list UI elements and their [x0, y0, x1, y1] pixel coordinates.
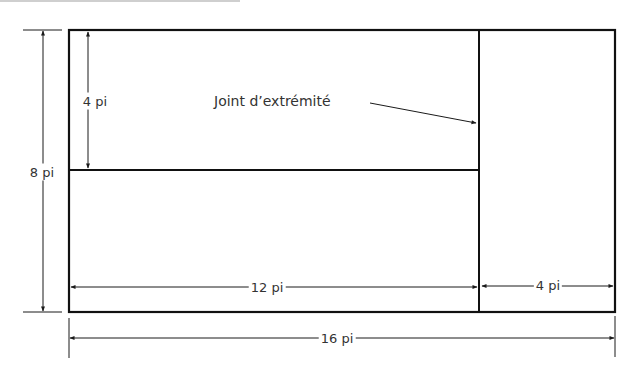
diagram-canvas: 8 pi 4 pi Joint d’extrémité 12 pi 4 pi 1…: [0, 0, 631, 380]
width-left-label: 12 pi: [249, 281, 286, 294]
end-joint-annotation: Joint d’extrémité: [214, 94, 331, 108]
width-total-label: 16 pi: [319, 332, 356, 345]
height-top-panel-label: 4 pi: [83, 93, 107, 110]
height-total-label: 8 pi: [30, 164, 54, 181]
joint-leader-arrow: [370, 103, 476, 123]
width-right-label: 4 pi: [534, 279, 562, 292]
dimension-drawing: [0, 0, 631, 380]
